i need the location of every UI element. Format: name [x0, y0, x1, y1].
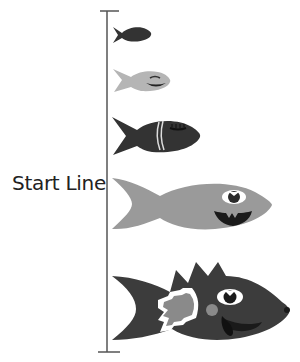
- fish-1-body: [113, 27, 151, 43]
- fish-5-largest: [112, 262, 290, 340]
- fish-3-medium: [112, 117, 200, 155]
- fish-5-cheek: [206, 304, 218, 316]
- fish-2-small: [113, 69, 170, 92]
- fish-3-body: [112, 117, 200, 155]
- fish-2-body: [113, 69, 170, 92]
- fish-4-body: [112, 178, 272, 229]
- fish-5-body: [112, 262, 289, 340]
- fish-5-nose: [284, 307, 290, 313]
- fish-1-tiny: [113, 27, 151, 43]
- fish-size-diagram: Start Line: [0, 0, 300, 362]
- fish-4-large: [112, 178, 272, 229]
- diagram-canvas: [0, 0, 300, 362]
